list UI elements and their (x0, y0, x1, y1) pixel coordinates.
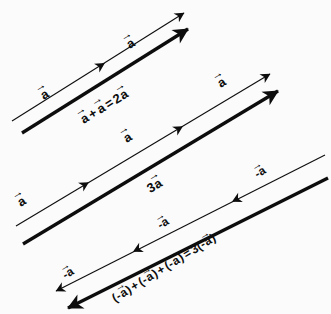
g1-resultant-line (22, 29, 188, 133)
g3-component-line (56, 155, 325, 291)
group-three-a (16, 74, 278, 244)
g2-component-line (16, 74, 270, 226)
vector-scalar-multiplication-figure: →a →a →a+→a=2→a →a →a →a 3→a →-a →-a →-a… (0, 0, 331, 314)
